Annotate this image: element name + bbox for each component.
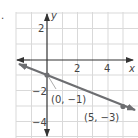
coordinate-plane: . y x 2 4 2 −2 −4 (0, −1) (5, −3) [0,0,138,138]
point-label-0-neg1: (0, −1) [51,94,86,105]
y-tick-neg2: −2 [32,86,47,97]
y-tick-2: 2 [38,23,44,34]
point-0-neg1 [44,72,49,77]
graph-line [19,64,47,75]
point-5-neg3 [120,104,125,109]
x-tick-2: 2 [74,63,80,74]
x-tick-4: 4 [104,63,110,74]
problem-marker: . [1,10,4,21]
x-axis-label: x [128,63,135,74]
point-label-5-neg3: (5, −3) [84,112,119,123]
y-axis-label: y [50,10,58,21]
y-tick-neg4: −4 [32,117,47,128]
